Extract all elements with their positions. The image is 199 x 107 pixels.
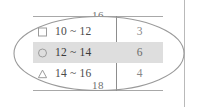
table-cell-interval: 10 ~ 12	[33, 26, 116, 38]
table-rows: 10 ~ 12 3 12 ~ 14 6	[33, 21, 163, 84]
table-cell-frequency: 3	[116, 26, 163, 38]
figure-canvas: 16 10 ~ 12 3	[0, 0, 199, 107]
clipped-row-below: 18	[33, 80, 163, 91]
square-marker-icon	[37, 26, 48, 37]
interval-text: 10 ~ 12	[55, 25, 91, 37]
table-cell-interval: 14 ~ 16	[33, 68, 116, 80]
table-cell-frequency: 6	[116, 47, 163, 59]
triangle-marker-icon	[37, 68, 48, 79]
table-cell-frequency: 4	[116, 68, 163, 80]
table-cell-interval: 12 ~ 14	[33, 47, 116, 59]
frequency-table: 16 10 ~ 12 3	[33, 16, 163, 91]
interval-text: 14 ~ 16	[55, 67, 91, 79]
table-row[interactable]: 10 ~ 12 3	[33, 21, 163, 42]
table-row[interactable]: 12 ~ 14 6	[33, 42, 163, 63]
page-margin-rule	[184, 0, 185, 107]
clipped-row-above: 16	[33, 10, 163, 17]
interval-text: 12 ~ 14	[55, 46, 91, 58]
circle-marker-icon	[37, 47, 48, 58]
